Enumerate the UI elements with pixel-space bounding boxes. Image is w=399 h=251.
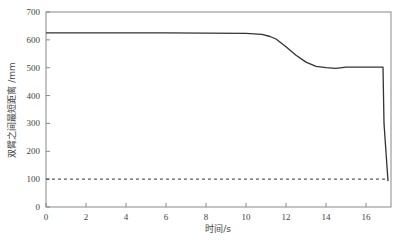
- x-tick-label: 8: [204, 212, 209, 222]
- x-axis-ticks: 0246810121416: [44, 203, 371, 222]
- y-tick-label: 300: [27, 118, 41, 128]
- x-tick-label: 14: [322, 212, 332, 222]
- x-axis-label: 时间/s: [205, 223, 231, 234]
- y-axis-label: 双臂之间最短距离 /mm: [6, 62, 17, 157]
- x-tick-label: 0: [44, 212, 49, 222]
- y-tick-label: 700: [27, 7, 41, 17]
- x-tick-label: 6: [164, 212, 169, 222]
- y-tick-label: 500: [27, 63, 41, 73]
- x-tick-label: 16: [362, 212, 372, 222]
- distance-solid-line: [46, 33, 388, 181]
- x-tick-label: 12: [282, 212, 291, 222]
- x-tick-label: 10: [242, 212, 252, 222]
- y-tick-label: 200: [27, 146, 41, 156]
- figure-caption: [0, 246, 399, 251]
- distance-line-chart: 0100200300400500600700 0246810121416 时间/…: [0, 0, 399, 251]
- x-tick-label: 4: [124, 212, 129, 222]
- data-series: [46, 33, 388, 181]
- y-tick-label: 600: [27, 35, 41, 45]
- y-tick-label: 100: [27, 174, 41, 184]
- x-tick-label: 2: [84, 212, 89, 222]
- plot-frame: [46, 12, 391, 207]
- y-tick-label: 400: [27, 91, 41, 101]
- y-tick-label: 0: [36, 202, 41, 212]
